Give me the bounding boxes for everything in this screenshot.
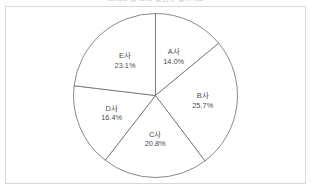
chart-screenshot: 그래프 를 보고 물음에 답하시오 A사14.0%B사25.7%C사20.8%D… [0,0,312,190]
pie-slice-percent-4: 16.4% [101,113,122,122]
pie-slice-percent-5: 23.1% [115,61,136,70]
pie-slices-group [73,13,237,177]
pie-slice-percent-2: 25.7% [192,101,213,110]
pie-slice-label-3: C사 [149,130,161,139]
pie-slice-label-1: A사 [168,47,180,56]
pie-chart: A사14.0%B사25.7%C사20.8%D사16.4%E사23.1% [0,0,312,190]
pie-slice-5 [74,13,155,95]
pie-slice-label-5: E사 [119,51,131,60]
pie-slice-percent-3: 20.8% [145,139,166,148]
pie-slice-percent-1: 14.0% [163,57,184,66]
pie-slice-label-2: B사 [197,91,209,100]
pie-slice-label-4: D사 [105,104,117,113]
